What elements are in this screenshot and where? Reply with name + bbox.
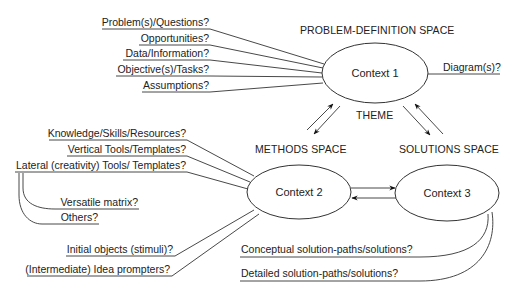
methods-input-labels: Knowledge/Skills/Resources? Vertical Too… xyxy=(16,127,186,275)
label-knowledge: Knowledge/Skills/Resources? xyxy=(48,127,186,139)
solutions-space-label: SOLUTIONS SPACE xyxy=(399,143,499,155)
problem-definition-space-label: PROBLEM-DEFINITION SPACE xyxy=(300,24,454,36)
label-lateral-tools: Lateral (creativity) Tools/ Templates? xyxy=(16,159,186,171)
label-assumptions: Assumptions? xyxy=(143,79,209,91)
connector-lateral-tools xyxy=(15,172,248,189)
label-conceptual-solutions: Conceptual solution-paths/solutions? xyxy=(241,243,413,255)
label-opportunities: Opportunities? xyxy=(141,32,209,44)
label-versatile-matrix: Versatile matrix? xyxy=(60,196,138,208)
label-data-information: Data/Information? xyxy=(126,47,210,59)
label-objectives: Objective(s)/Tasks? xyxy=(117,63,209,75)
connector-objectives xyxy=(116,76,322,77)
arrow-methods-to-problem xyxy=(307,104,333,130)
context-2-label: Context 2 xyxy=(275,186,322,198)
label-idea-prompters: (Intermediate) Idea prompters? xyxy=(25,263,170,275)
theme-label: THEME xyxy=(356,109,393,121)
theme-diagram: PROBLEM-DEFINITION SPACE Problem(s)/Ques… xyxy=(0,0,513,292)
context-3-label: Context 3 xyxy=(423,187,470,199)
label-initial-objects: Initial objects (stimuli)? xyxy=(67,243,173,255)
arrow-problem-to-solutions xyxy=(403,106,430,135)
label-vertical-tools: Vertical Tools/Templates? xyxy=(68,143,186,155)
label-others: Others? xyxy=(61,211,99,223)
problem-input-connectors xyxy=(102,29,324,92)
methods-space-label: METHODS SPACE xyxy=(255,143,347,155)
label-problems: Problem(s)/Questions? xyxy=(102,16,210,28)
problem-input-labels: Problem(s)/Questions? Opportunities? Dat… xyxy=(102,16,210,91)
label-diagrams: Diagram(s)? xyxy=(443,61,501,73)
context-1-label: Context 1 xyxy=(351,67,398,79)
arrow-solutions-to-problem xyxy=(415,104,443,134)
label-detailed-solutions: Detailed solution-paths/solutions? xyxy=(241,267,398,279)
